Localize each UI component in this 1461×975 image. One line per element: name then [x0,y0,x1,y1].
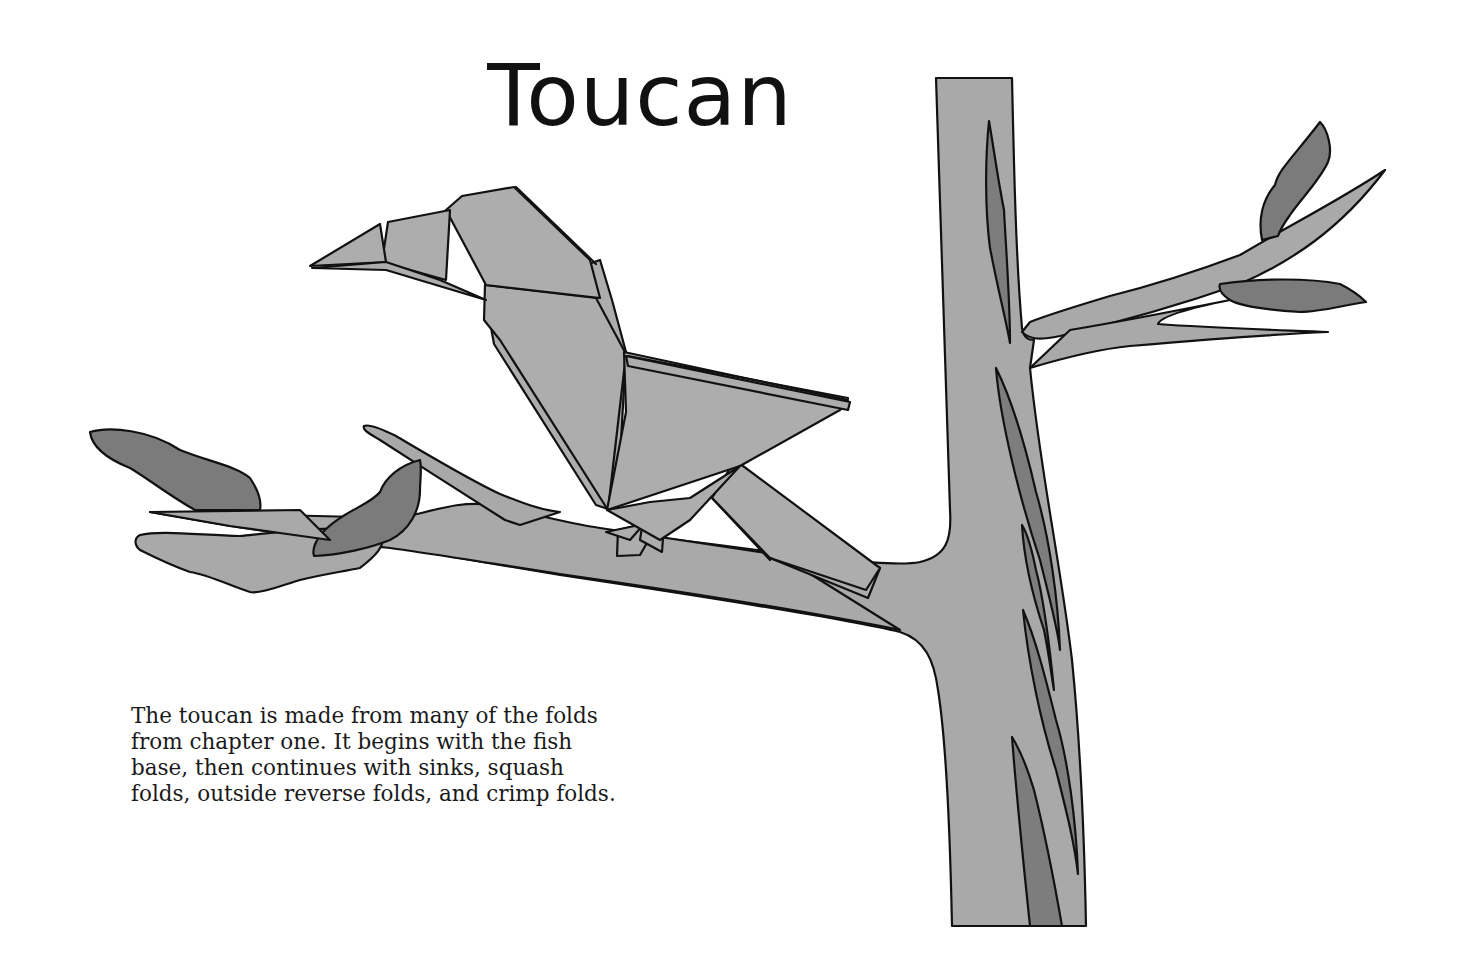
leaf-far-left [90,429,261,510]
book-page: Toucan The toucan is made from many of t… [0,0,1461,975]
page-title: Toucan [470,40,810,150]
caption-line: The toucan is made from many of the fold… [131,703,751,729]
caption-line: from chapter one. It begins with the fis… [131,729,751,755]
caption-line: base, then continues with sinks, squash [131,755,751,781]
leaf-right [1219,280,1366,313]
upper-branch [1022,170,1385,368]
caption-line: folds, outside reverse folds, and crimp … [131,781,751,807]
caption-text: The toucan is made from many of the fold… [131,703,751,807]
